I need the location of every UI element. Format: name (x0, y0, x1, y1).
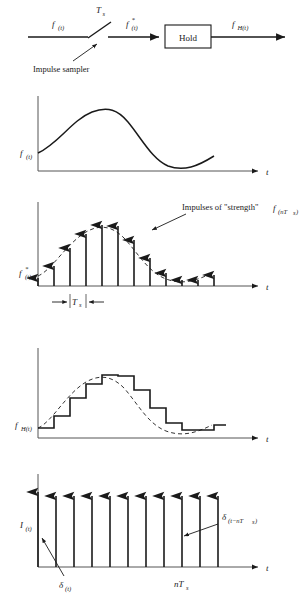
strength-annotation-symbol: f (273, 203, 277, 213)
y-axis-label-sub: H(t) (20, 425, 32, 433)
sampling-period-label-main: T (96, 5, 102, 15)
y-axis-label: I (t) (19, 520, 32, 533)
y-axis-label-main: f (20, 148, 24, 158)
sampled-signal-label-sub: (t) (132, 24, 138, 32)
strength-annotation-text: Impulses of "strength" (182, 202, 258, 212)
impulse-sampler-leader (73, 44, 97, 61)
input-signal-label: f (t) (52, 19, 64, 32)
unit-impulse-stems (38, 492, 218, 567)
staircase-curve (38, 375, 226, 430)
strength-annotation-symbol-sub: (nT (278, 208, 287, 216)
input-signal-label-main: f (52, 19, 56, 29)
x-axis-label: t (266, 563, 269, 573)
y-axis-label-sub: (t) (26, 153, 32, 161)
hold-output-panel: f H(t) t (0, 340, 304, 458)
period-indicator: T s (52, 294, 104, 308)
hold-block-label: Hold (179, 33, 198, 43)
ntick-label-main: nT (174, 579, 185, 589)
envelope-dashed-curve (38, 227, 212, 282)
sampled-signal-label: f * (t) (126, 16, 138, 32)
y-axis-label-sub: (t) (25, 273, 31, 281)
block-diagram-panel: Hold f (t) T s f * (t) f H(t) Impulse sa… (0, 0, 304, 76)
impulse-stems (38, 225, 214, 286)
sampling-period-label: T s (96, 5, 106, 17)
y-axis-label-main: f (19, 268, 23, 278)
y-axis-label-sub: (t) (26, 525, 32, 533)
hold-output-svg: f H(t) t (0, 340, 304, 458)
sampled-signal-label-star: * (132, 16, 136, 23)
sampled-signal-panel: f * (t) t Impulses of "strength" f (nT s… (0, 196, 304, 326)
ntick-label: nT s (174, 579, 189, 591)
delta-shift-annotation-main: δ (222, 512, 227, 522)
continuous-signal-panel: f (t) t (0, 86, 304, 186)
strength-annotation: Impulses of "strength" f (nT s ) (182, 202, 298, 216)
reference-dashed-curve (38, 377, 212, 434)
y-axis-label: f (t) (20, 148, 32, 161)
y-axis-label-main: f (15, 420, 19, 430)
input-signal-label-sub: (t) (58, 24, 64, 32)
delta-annotation-leader (42, 538, 64, 576)
ntick-label-sub: s (186, 584, 189, 591)
y-axis-label: f H(t) (15, 420, 32, 433)
signal-curve (38, 109, 214, 168)
impulse-train-svg: I (t) t δ (t) δ (t−nT s ) nT s (0, 462, 304, 606)
output-signal-label: f H(t) (232, 19, 248, 32)
y-axis-label-star: * (25, 265, 29, 272)
sampling-period-label-sub: s (103, 10, 106, 17)
y-axis-label-main: I (19, 520, 24, 530)
output-signal-label-main: f (232, 19, 236, 29)
strength-annotation-leader (152, 214, 186, 230)
period-label-main: T (72, 297, 78, 307)
output-signal-label-sub: H(t) (237, 24, 249, 32)
continuous-signal-svg: f (t) t (0, 86, 304, 186)
strength-annotation-symbol-sub3: ) (295, 208, 298, 216)
delta-shift-annotation: δ (t−nT s ) (222, 512, 257, 525)
x-axis-label: t (266, 282, 269, 292)
delta-shift-annotation-sub3: ) (254, 517, 257, 525)
sampled-signal-label-main: f (126, 19, 130, 29)
x-axis-label: t (266, 434, 269, 444)
x-axis-label: t (266, 167, 269, 177)
delta-annotation: δ (t) (59, 580, 71, 593)
impulse-sampler-annotation: Impulse sampler (33, 64, 90, 74)
delta-annotation-sub: (t) (65, 585, 71, 593)
impulse-train-panel: I (t) t δ (t) δ (t−nT s ) nT s (0, 462, 304, 606)
delta-shift-annotation-sub: (t−nT (228, 517, 244, 525)
sampled-signal-svg: f * (t) t Impulses of "strength" f (nT s… (0, 196, 304, 326)
block-diagram-svg: Hold f (t) T s f * (t) f H(t) Impulse sa… (0, 0, 304, 76)
delta-shift-annotation-leader (184, 524, 218, 536)
period-label-sub: s (79, 301, 82, 308)
delta-annotation-main: δ (59, 580, 64, 590)
sampler-switch-arm (88, 22, 111, 38)
y-axis-label: f * (t) (19, 265, 31, 281)
